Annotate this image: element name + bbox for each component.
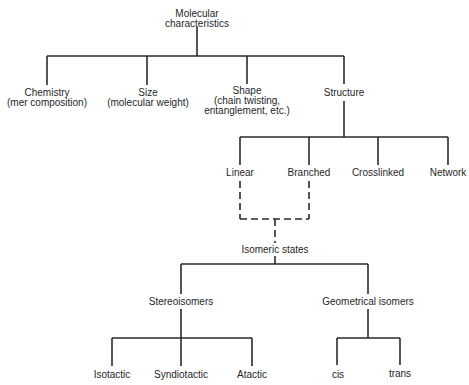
node-chemistry: Chemistry (mer composition) (7, 88, 87, 108)
node-network: Network (430, 168, 467, 178)
node-branched: Branched (288, 168, 331, 178)
node-size: Size (molecular weight) (107, 88, 189, 108)
node-label-line: entanglement, etc.) (204, 106, 290, 116)
node-structure: Structure (324, 88, 365, 98)
node-label-line: (molecular weight) (107, 98, 189, 108)
node-atactic: Atactic (237, 370, 267, 380)
node-isomeric-states: Isomeric states (241, 245, 308, 255)
tree-connectors (0, 0, 469, 385)
node-cis: cis (332, 370, 344, 380)
node-label-line: characteristics (165, 19, 229, 29)
node-syndiotactic: Syndiotactic (154, 370, 208, 380)
node-stereoisomers: Stereoisomers (149, 297, 213, 307)
node-label-line: (mer composition) (7, 98, 87, 108)
node-crosslinked: Crosslinked (352, 168, 404, 178)
node-molecular-characteristics: Molecular characteristics (165, 9, 229, 29)
node-geometrical-isomers: Geometrical isomers (322, 297, 414, 307)
node-label-line: Structure (324, 88, 365, 98)
node-shape: Shape (chain twisting, entanglement, etc… (204, 86, 290, 116)
node-isotactic: Isotactic (94, 370, 131, 380)
node-linear: Linear (226, 168, 254, 178)
node-trans: trans (389, 369, 411, 379)
